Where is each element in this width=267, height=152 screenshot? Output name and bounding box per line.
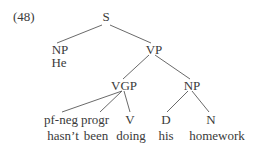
word-homework: homework	[189, 129, 245, 143]
node-s: S	[102, 10, 109, 24]
branch-s-np	[57, 25, 102, 43]
word-hasnt: hasn’t	[47, 129, 79, 143]
node-d: D	[161, 113, 170, 127]
node-vgp: VGP	[111, 79, 137, 93]
word-doing: doing	[116, 129, 146, 143]
node-pf-neg: pf-neg	[44, 113, 78, 127]
node-v: V	[125, 113, 134, 127]
syntax-tree-diagram: (48) S NP He VP VGP NP pf-neg progr V D …	[0, 0, 267, 152]
word-his: his	[158, 129, 173, 143]
branch-np-n	[192, 91, 209, 112]
branch-vgp-progr	[100, 91, 122, 112]
node-np-object: NP	[184, 79, 201, 93]
branch-s-vp	[110, 25, 151, 43]
branch-np-d	[167, 91, 188, 112]
node-n: N	[206, 113, 215, 127]
node-progr: progr	[81, 113, 109, 127]
node-vp: VP	[146, 43, 163, 57]
example-number: (48)	[13, 10, 35, 24]
branch-vgp-v	[124, 91, 130, 112]
word-he: He	[51, 56, 66, 70]
branch-vgp-pfneg	[62, 91, 122, 112]
branch-vp-np	[155, 55, 190, 79]
word-been: been	[84, 129, 109, 143]
branch-vp-vgp	[123, 55, 149, 79]
